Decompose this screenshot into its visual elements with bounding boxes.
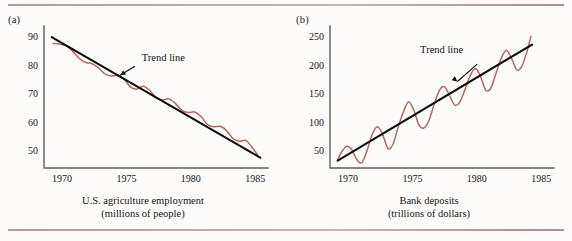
b-ytick-label: 250 (309, 31, 324, 42)
b-xtick-label: 1975 (402, 173, 422, 184)
a-trend-line-label: Trend line (142, 52, 185, 63)
panel-a-caption-line1: U.S. agriculture employment (82, 195, 204, 206)
panel-b-x-axis-ticks: 1970197519801985 (338, 173, 551, 184)
bottom-rule (8, 229, 564, 231)
a-xtick-label: 1980 (181, 173, 201, 184)
panel-b: (b) 50100150200250 1970197519801985 Tren… (286, 12, 572, 224)
panel-a-y-axis-ticks: 5060708090 (28, 31, 38, 156)
b-ytick-label: 150 (309, 88, 324, 99)
b-xtick-label: 1970 (338, 173, 358, 184)
b-ytick-label: 100 (309, 117, 324, 128)
b-xtick-label: 1980 (467, 173, 487, 184)
panel-a-caption-line2: (millions of people) (0, 207, 286, 220)
b-xtick-label: 1985 (531, 173, 551, 184)
a-xtick-label: 1985 (245, 173, 265, 184)
panel-b-caption-line1: Bank deposits (399, 195, 458, 206)
panel-a-x-axis-ticks: 1970197519801985 (52, 173, 265, 184)
panel-b-annotation: Trend line (420, 44, 477, 82)
panel-b-y-axis-ticks: 50100150200250 (309, 31, 324, 156)
a-xtick-label: 1970 (52, 173, 72, 184)
panel-a-annotation: Trend line (120, 52, 185, 75)
b-ytick-label: 200 (309, 60, 324, 71)
b-ytick-label: 50 (314, 145, 324, 156)
a-ytick-label: 70 (28, 88, 38, 99)
a-ytick-label: 50 (28, 145, 38, 156)
a-ytick-label: 90 (28, 31, 38, 42)
b-trend-line-label: Trend line (420, 44, 463, 55)
panel-b-caption-line2: (trillions of dollars) (286, 207, 572, 220)
panel-b-plot: 50100150200250 1970197519801985 Trend li… (286, 12, 572, 224)
panel-a: (a) 5060708090 1970197519801985 Trend li… (0, 12, 286, 224)
panel-a-plot: 5060708090 1970197519801985 Trend line (0, 12, 286, 224)
b-annotation-arrowhead (452, 76, 458, 81)
figure-container: (a) 5060708090 1970197519801985 Trend li… (0, 0, 572, 241)
panel-b-caption: Bank deposits (trillions of dollars) (286, 194, 572, 220)
a-ytick-label: 80 (28, 60, 38, 71)
panel-a-caption: U.S. agriculture employment (millions of… (0, 194, 286, 220)
panel-b-trend-line (338, 45, 532, 161)
top-rule (8, 4, 564, 6)
a-ytick-label: 60 (28, 117, 38, 128)
a-xtick-label: 1975 (116, 173, 136, 184)
